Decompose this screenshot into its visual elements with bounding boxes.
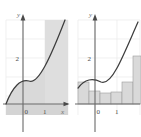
riemann-rect-6 xyxy=(133,56,141,104)
area-fill-band xyxy=(45,20,68,104)
panel-background xyxy=(70,0,141,137)
x-tick-1: 1 xyxy=(115,108,119,116)
x-tick-0: 0 xyxy=(25,108,29,116)
riemann-rect-3 xyxy=(100,93,111,104)
exact-area-panel: 0 1 2 y x xyxy=(0,0,70,137)
riemann-sum-panel: 0 1 2 y xyxy=(70,0,140,137)
y-tick-2: 2 xyxy=(16,55,20,63)
area-fill-lower xyxy=(6,104,68,115)
y-tick-2: 2 xyxy=(88,55,92,63)
riemann-rect-4 xyxy=(111,92,122,104)
x-tick-1: 1 xyxy=(43,108,47,116)
figure-pair: 0 1 2 y x xyxy=(0,0,141,137)
x-tick-0: 0 xyxy=(97,108,101,116)
riemann-rect-5 xyxy=(122,82,133,104)
